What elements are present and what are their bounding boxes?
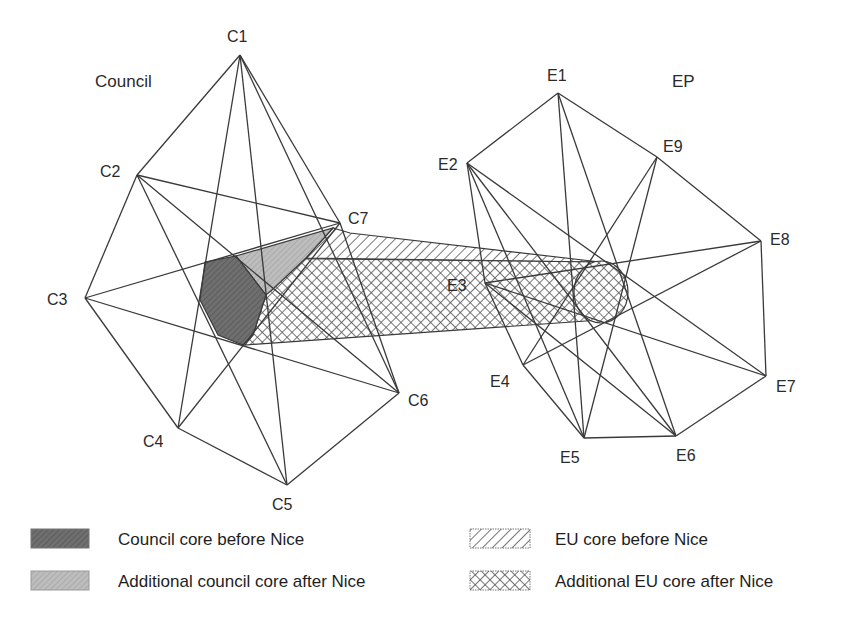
legend-item-council-core-before: Council core before Nice	[31, 529, 304, 549]
council-edge-c4-c5	[178, 428, 287, 485]
legend-item-council-core-additional: Additional council core after Nice	[31, 571, 366, 591]
node-label-e8: E8	[770, 231, 790, 248]
legend: Council core before Nice Additional coun…	[31, 529, 773, 591]
ep-edge-e1-e9	[558, 93, 657, 157]
ep-edge-e5-e4	[523, 365, 584, 438]
legend-label: EU core before Nice	[555, 530, 708, 549]
light-grey-swatch-icon	[31, 571, 89, 590]
node-label-c6: C6	[408, 392, 429, 409]
council-edge-c1-c4	[178, 55, 240, 428]
node-label-c2: C2	[100, 163, 121, 180]
legend-item-eu-core-additional: Additional EU core after Nice	[470, 571, 773, 591]
node-label-e9: E9	[663, 138, 683, 155]
legend-label: Additional EU core after Nice	[555, 572, 773, 591]
council-edge-c3-c4	[85, 298, 178, 428]
eu-core-before-region	[306, 228, 600, 262]
node-label-e7: E7	[776, 378, 796, 395]
node-label-e3: E3	[447, 277, 467, 294]
diagonal-hatch-swatch-icon	[470, 529, 530, 548]
node-label-c4: C4	[143, 433, 164, 450]
ep-group-label: EP	[672, 72, 695, 91]
core-diagram: C1C2C3C4C5C6C7 E1E2E3E4E5E6E7E8E9 Counci…	[0, 0, 854, 631]
node-label-c7: C7	[348, 210, 369, 227]
ep-edge-e9-e8	[657, 157, 761, 241]
ep-edge-e7-e6	[676, 376, 766, 436]
ep-edge-e8-e7	[761, 241, 766, 376]
node-label-e6: E6	[676, 447, 696, 464]
dark-grey-swatch-icon	[31, 529, 89, 548]
node-label-c3: C3	[47, 291, 68, 308]
council-group-label: Council	[95, 72, 152, 91]
cross-hatch-swatch-icon	[470, 571, 530, 590]
legend-item-eu-core-before: EU core before Nice	[470, 529, 708, 549]
council-edge-c1-c2	[137, 55, 240, 175]
node-label-c5: C5	[272, 496, 293, 513]
node-label-e1: E1	[547, 67, 567, 84]
node-label-e2: E2	[438, 156, 458, 173]
council-edge-c5-c6	[287, 393, 399, 485]
ep-edge-e6-e5	[584, 436, 676, 438]
ep-edge-e1-e2	[467, 93, 558, 163]
node-label-e5: E5	[560, 449, 580, 466]
council-edge-c2-c7	[137, 175, 340, 223]
node-label-e4: E4	[490, 373, 510, 390]
legend-label: Council core before Nice	[118, 530, 304, 549]
legend-label: Additional council core after Nice	[118, 572, 366, 591]
council-edge-c2-c3	[85, 175, 137, 298]
node-label-c1: C1	[227, 28, 248, 45]
